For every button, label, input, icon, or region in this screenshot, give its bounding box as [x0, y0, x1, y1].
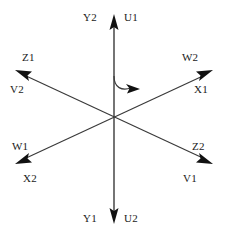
- axis-vector-diagram: Y2 U1 Z1 V2 W2 X1 W1 X2 Z2 V1 Y1 U2: [0, 0, 227, 234]
- diagonal-ne-arrowhead: [196, 70, 213, 81]
- diagonal-sw-arrowhead: [15, 153, 32, 164]
- label-z1: Z1: [22, 52, 35, 63]
- label-z2: Z2: [192, 141, 205, 152]
- label-u1: U1: [124, 12, 138, 23]
- label-v2: V2: [10, 84, 24, 95]
- diagonal-nw-arrowhead: [15, 70, 32, 81]
- label-y2: Y2: [83, 12, 97, 23]
- label-w1: W1: [12, 141, 28, 152]
- label-x2: X2: [23, 173, 37, 184]
- label-u2: U2: [124, 213, 138, 224]
- diagonal-se-arrowhead: [196, 153, 213, 164]
- label-x1: X1: [194, 84, 208, 95]
- label-v1: V1: [183, 173, 197, 184]
- label-w2: W2: [182, 52, 198, 63]
- axes-svg-canvas: [0, 0, 227, 234]
- label-y1: Y1: [83, 213, 97, 224]
